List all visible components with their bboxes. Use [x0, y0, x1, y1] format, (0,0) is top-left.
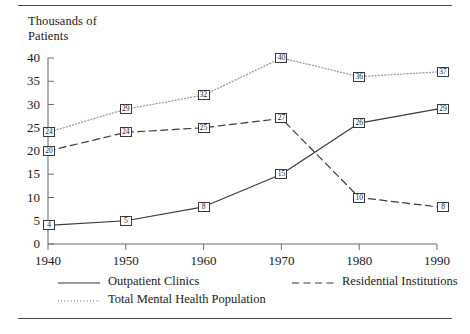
data-point-label: 27 [275, 113, 287, 123]
y-tick-label: 25 [14, 120, 40, 136]
x-tick-label: 1980 [329, 253, 389, 269]
data-point-label: 8 [198, 202, 210, 212]
x-axis-ticks [48, 244, 437, 250]
y-tick-label: 10 [14, 190, 40, 206]
y-tick-label: 15 [14, 166, 40, 182]
x-tick-label: 1960 [174, 253, 234, 269]
data-point-label: 29 [120, 104, 132, 114]
x-tick-label: 1970 [251, 253, 311, 269]
data-point-label: 20 [43, 146, 55, 156]
data-point-label: 37 [437, 67, 449, 77]
data-point-label: 24 [120, 127, 132, 137]
axes [48, 58, 437, 244]
x-tick-label: 1940 [18, 253, 78, 269]
data-point-label: 5 [120, 216, 132, 226]
data-point-label: 25 [198, 123, 210, 133]
y-tick-label: 40 [14, 50, 40, 66]
data-point-label: 29 [437, 104, 449, 114]
data-point-label: 32 [198, 90, 210, 100]
series-line-0 [48, 109, 437, 225]
x-tick-label: 1950 [96, 253, 156, 269]
y-tick-label: 20 [14, 143, 40, 159]
data-point-label: 15 [275, 169, 287, 179]
series-line-1 [48, 58, 437, 132]
data-point-label: 10 [353, 193, 365, 203]
legend-label-1: Total Mental Health Population [108, 292, 266, 307]
data-point-label: 24 [43, 127, 55, 137]
data-point-label: 36 [353, 72, 365, 82]
series-line-2 [48, 118, 437, 206]
figure: Thousands of Patients 051015202530354019… [0, 0, 470, 334]
legend-label-0: Outpatient Clinics [108, 274, 199, 289]
y-tick-label: 30 [14, 97, 40, 113]
y-tick-label: 0 [14, 236, 40, 252]
data-point-label: 8 [437, 202, 449, 212]
data-point-label: 26 [353, 118, 365, 128]
legend-label-2: Residential Institutions [342, 274, 458, 289]
data-point-label: 40 [275, 53, 287, 63]
y-tick-label: 5 [14, 213, 40, 229]
data-point-label: 4 [43, 220, 55, 230]
x-tick-label: 1990 [407, 253, 467, 269]
y-tick-label: 35 [14, 73, 40, 89]
